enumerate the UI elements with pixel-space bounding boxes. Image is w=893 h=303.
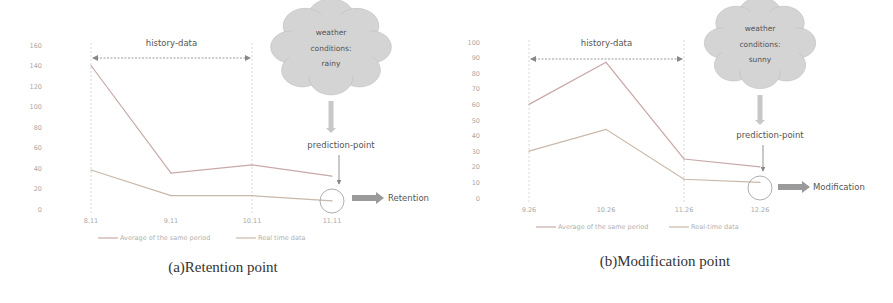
cloud-text-line: rainy xyxy=(322,59,342,68)
y-tick-label: 60 xyxy=(34,144,42,152)
y-tick-label: 20 xyxy=(472,163,480,171)
weather-cloud: weatherconditions:rainy xyxy=(271,0,392,95)
history-data-label: history-data xyxy=(146,38,197,48)
chart-caption: (a)Retention point xyxy=(168,259,278,276)
result-arrow-icon xyxy=(778,181,810,193)
legend-label: Average of the same period xyxy=(558,223,648,231)
y-axis-ticks: 0102030405060708090100 xyxy=(468,39,480,203)
cloud-text-line: sunny xyxy=(749,55,772,64)
legend-label: Real time data xyxy=(258,234,305,242)
y-tick-label: 40 xyxy=(34,165,42,173)
figure-canvas: 020406080100120140160 8.119.1110.1111.11… xyxy=(0,0,893,303)
weather-cloud: weatherconditions:sunny xyxy=(704,0,815,89)
chart-modification: 0102030405060708090100 9.2610.2611.2612.… xyxy=(468,0,865,270)
y-tick-label: 10 xyxy=(472,179,480,187)
prediction-circle xyxy=(748,176,772,200)
data-point xyxy=(683,179,684,180)
chart-caption: (b)Modification point xyxy=(600,253,731,270)
y-tick-label: 50 xyxy=(472,117,480,125)
data-point xyxy=(251,164,252,165)
legend: Average of the same periodReal-time data xyxy=(536,223,739,231)
result-arrow-icon xyxy=(352,192,384,204)
y-tick-label: 100 xyxy=(30,103,42,111)
y-tick-label: 160 xyxy=(30,42,42,50)
result-label: Retention xyxy=(388,193,429,203)
y-tick-label: 20 xyxy=(34,185,42,193)
cloud-down-arrow-icon xyxy=(758,95,763,120)
data-point xyxy=(170,173,171,174)
y-tick-label: 0 xyxy=(476,195,480,203)
history-boundary-lines xyxy=(91,43,252,213)
x-tick-label: 9.11 xyxy=(164,217,178,225)
y-tick-label: 60 xyxy=(472,101,480,109)
y-tick-label: 100 xyxy=(468,39,480,47)
y-tick-label: 0 xyxy=(38,206,42,214)
series-realtime-line xyxy=(91,170,332,201)
y-tick-label: 140 xyxy=(30,62,42,70)
data-point xyxy=(759,182,760,183)
legend-label: Average of the same period xyxy=(120,234,210,242)
prediction-point-label: prediction-point xyxy=(307,140,375,150)
data-point xyxy=(90,169,91,170)
legend-label: Real-time data xyxy=(691,223,739,231)
cloud-text-line: weather xyxy=(316,28,348,37)
cloud-text-line: conditions: xyxy=(310,44,351,53)
x-tick-label: 12.26 xyxy=(751,206,770,214)
x-tick-label: 8.11 xyxy=(84,217,98,225)
y-tick-label: 70 xyxy=(472,85,480,93)
legend: Average of the same periodReal time data xyxy=(98,234,305,242)
data-point xyxy=(170,195,171,196)
data-point xyxy=(251,195,252,196)
y-axis-ticks: 020406080100120140160 xyxy=(30,42,42,214)
x-axis-ticks: 9.2610.2611.2612.26 xyxy=(522,206,770,214)
history-boundary-lines xyxy=(529,40,684,202)
x-tick-label: 10.26 xyxy=(597,206,616,214)
cloud-text-line: conditions: xyxy=(739,40,780,49)
x-tick-label: 9.26 xyxy=(522,206,536,214)
data-point xyxy=(528,104,529,105)
history-data-label: history-data xyxy=(581,38,632,48)
cloud-down-arrowhead-icon xyxy=(326,128,336,133)
x-tick-label: 11.26 xyxy=(675,206,694,214)
cloud-down-arrowhead-icon xyxy=(755,120,765,125)
data-point xyxy=(759,166,760,167)
cloud-down-arrow-icon xyxy=(329,101,334,128)
data-point xyxy=(605,62,606,63)
result-label: Modification xyxy=(813,182,865,192)
y-tick-label: 90 xyxy=(472,54,480,62)
y-tick-label: 40 xyxy=(472,132,480,140)
cloud-text-line: weather xyxy=(745,24,777,33)
x-tick-label: 11.11 xyxy=(323,217,342,225)
prediction-point-label: prediction-point xyxy=(736,130,804,140)
data-point xyxy=(90,65,91,66)
data-point xyxy=(528,151,529,152)
chart-retention: 020406080100120140160 8.119.1110.1111.11… xyxy=(30,0,429,276)
y-tick-label: 120 xyxy=(30,83,42,91)
data-point xyxy=(683,158,684,159)
data-point xyxy=(605,129,606,130)
y-tick-label: 80 xyxy=(472,70,480,78)
data-point xyxy=(331,200,332,201)
x-axis-ticks: 8.119.1110.1111.11 xyxy=(84,217,342,225)
series-realtime-line xyxy=(529,129,760,182)
data-point xyxy=(331,176,332,177)
x-tick-label: 10.11 xyxy=(243,217,262,225)
y-tick-label: 30 xyxy=(472,148,480,156)
y-tick-label: 80 xyxy=(34,124,42,132)
